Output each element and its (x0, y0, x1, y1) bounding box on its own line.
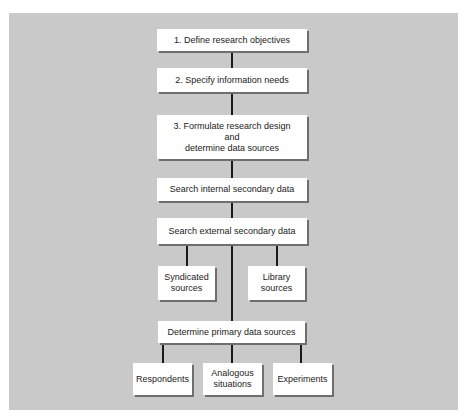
step-primary-sources: Determine primary data sources (158, 321, 305, 343)
box-text: situations (213, 379, 251, 390)
step-internal-secondary: Search internal secondary data (157, 178, 307, 201)
box-text: sources (261, 283, 293, 294)
connector-1-2 (231, 51, 233, 68)
box-text: Syndicated (164, 272, 209, 283)
connector-primary-analogous (231, 343, 233, 363)
connector-external-primary (231, 244, 233, 321)
box-text: and (224, 132, 239, 143)
step-syndicated-sources: Syndicated sources (158, 266, 215, 300)
connector-primary-respondents (162, 343, 164, 363)
step-external-secondary: Search external secondary data (157, 218, 307, 244)
step-define-objectives: 1. Define research objectives (157, 29, 307, 51)
box-text: Search internal secondary data (170, 184, 295, 195)
step-respondents: Respondents (133, 363, 192, 395)
step-experiments: Experiments (273, 363, 332, 395)
connector-primary-experiments (300, 343, 302, 363)
box-text: Experiments (277, 374, 327, 385)
box-text: Library (263, 272, 291, 283)
box-text: 1. Define research objectives (174, 35, 290, 46)
connector-external-syndicated (186, 244, 188, 266)
box-text: Search external secondary data (168, 226, 295, 237)
step-formulate-design: 3. Formulate research design and determi… (157, 115, 307, 159)
connector-external-library (276, 244, 278, 266)
step-library-sources: Library sources (248, 266, 305, 300)
box-text: Respondents (136, 374, 189, 385)
step-analogous-situations: Analogous situations (203, 363, 262, 395)
step-specify-needs: 2. Specify information needs (157, 68, 307, 92)
box-text: Determine primary data sources (167, 327, 295, 338)
connector-3-internal (231, 159, 233, 178)
connector-internal-external (231, 201, 233, 218)
box-text: sources (171, 283, 203, 294)
box-text: 2. Specify information needs (175, 75, 289, 86)
connector-2-3 (231, 92, 233, 115)
box-text: Analogous (211, 368, 254, 379)
box-text: 3. Formulate research design (173, 121, 290, 132)
box-text: determine data sources (185, 143, 279, 154)
